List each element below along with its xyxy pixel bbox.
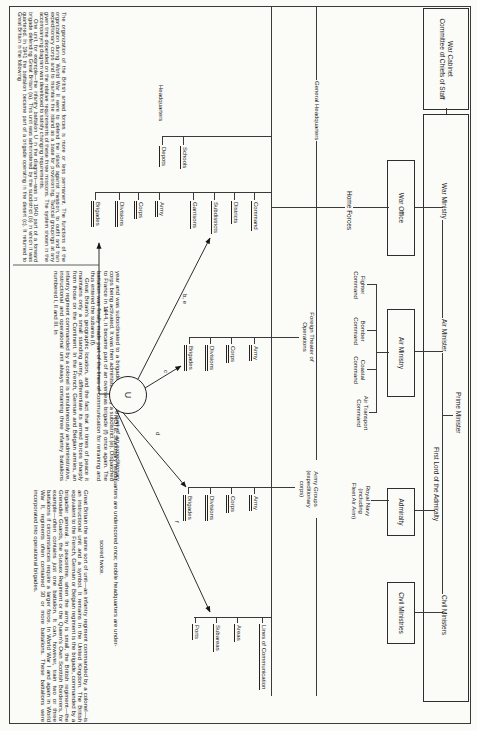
army-groups-line1: Army Groups: [313, 471, 319, 506]
unit-arrows: [0, 0, 477, 731]
army-groups-line3: corps): [299, 481, 305, 498]
arrow-label-f: f: [174, 521, 180, 523]
unit-symbol: U: [123, 392, 133, 399]
unit-circle: U: [109, 376, 147, 414]
foreign-theater-label: Foreign Theater of Operations: [301, 306, 315, 368]
arrow-label-d: d: [155, 432, 161, 435]
arrow-label-be: b, e: [182, 294, 188, 304]
org-chart-stage: War Cabinet Committee of Chiefs of Staff…: [0, 0, 477, 731]
general-headquarters-label: General Headquarters: [313, 80, 320, 141]
arrow-label-a: a: [103, 308, 109, 311]
army-groups-line2: (expeditionary: [306, 470, 312, 508]
fto-line2: Operations: [302, 322, 308, 351]
fto-line1: Foreign Theater of: [309, 312, 315, 361]
army-groups-label: Army Groups (expeditionary corps): [298, 460, 319, 518]
arrow-label-c: c: [163, 370, 169, 373]
page: War Cabinet Committee of Chiefs of Staff…: [0, 0, 477, 731]
